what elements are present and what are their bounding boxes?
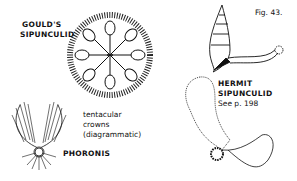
hermit-sipunculid-page-ref: See p. 198: [218, 99, 258, 108]
goulds-sipunculid-crown-drawing: [70, 15, 150, 95]
phoronis-label: PHORONIS: [63, 149, 110, 158]
goulds-sipunculid-label-line2: SIPUNCULID: [20, 30, 74, 39]
crowns-label-line1: tentacular: [83, 110, 122, 119]
phoronis-drawing: [12, 102, 66, 170]
hermit-sipunculid-label-line2: SIPUNCULID: [218, 89, 272, 98]
hermit-sipunculid-label-line1: HERMIT: [218, 79, 252, 88]
crowns-label-line3: (diagrammatic): [83, 130, 141, 139]
goulds-sipunculid-label-line1: GOULD'S: [22, 20, 61, 29]
crowns-label-line2: crowns: [83, 120, 109, 129]
figure-number: Fig. 43.: [255, 8, 282, 17]
